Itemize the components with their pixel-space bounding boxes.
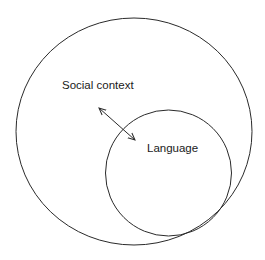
language-label: Language (147, 142, 198, 154)
nested-circles-diagram: Social context Language (0, 0, 265, 260)
social-context-label: Social context (62, 79, 134, 91)
language-circle (106, 110, 232, 236)
social-context-circle (16, 18, 252, 245)
diagram-canvas: Social context Language (0, 0, 265, 260)
